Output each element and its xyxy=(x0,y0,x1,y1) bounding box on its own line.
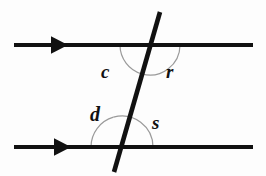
geometry-canvas xyxy=(0,0,266,176)
upper-arrowhead-icon xyxy=(51,36,68,54)
angle-arc-s xyxy=(113,116,153,147)
lower-arrowhead-icon xyxy=(54,138,71,156)
angle-label-r: r xyxy=(166,62,173,81)
geometry-figure: c r d s xyxy=(0,0,266,176)
angle-label-c: c xyxy=(101,62,109,81)
angle-label-s: s xyxy=(152,113,159,132)
angle-label-d: d xyxy=(90,104,100,124)
angle-arc-c xyxy=(120,45,142,74)
